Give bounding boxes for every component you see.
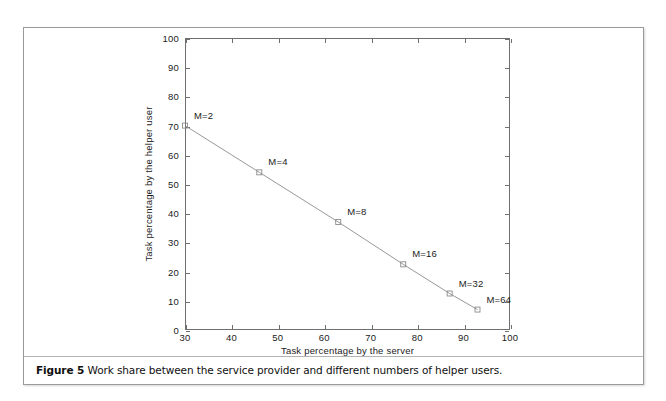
y-axis-tick-label: 80 <box>168 91 179 102</box>
x-axis-tick-label: 60 <box>319 332 330 343</box>
y-axis-tick-label: 40 <box>168 208 179 219</box>
x-axis-tick <box>511 39 512 43</box>
data-point-label: M=4 <box>268 156 287 167</box>
figure-chart-area: 304050607080901000102030405060708090100 … <box>24 28 643 356</box>
y-axis-tick-label: 10 <box>168 295 179 306</box>
data-point-label: M=16 <box>412 248 437 259</box>
y-axis-tick-label: 90 <box>168 62 179 73</box>
scanned-page: 304050607080901000102030405060708090100 … <box>23 27 644 385</box>
x-axis-tick-label: 50 <box>272 332 283 343</box>
x-axis-tick <box>511 325 512 329</box>
figure-caption-body: Work share between the service provider … <box>84 364 502 376</box>
x-axis-tick-label: 80 <box>412 332 423 343</box>
y-axis-tick-label: 20 <box>168 266 179 277</box>
y-axis-tick-label: 0 <box>174 325 179 336</box>
x-axis-tick-label: 30 <box>180 332 191 343</box>
x-axis-tick-label: 40 <box>226 332 237 343</box>
x-axis-tick-label: 70 <box>365 332 376 343</box>
y-axis-tick-label: 50 <box>168 179 179 190</box>
y-axis-tick-label: 70 <box>168 120 179 131</box>
y-axis-tick-label: 60 <box>168 149 179 160</box>
figure-caption-prefix: Figure 5 <box>36 364 84 376</box>
figure-caption: Figure 5 Work share between the service … <box>36 364 502 376</box>
y-axis-label: Task percentage by the helper user <box>143 106 154 261</box>
x-axis-tick-label: 90 <box>458 332 469 343</box>
data-point-label: M=2 <box>194 110 213 121</box>
data-point-label: M=64 <box>487 294 512 305</box>
y-axis-tick-label: 30 <box>168 237 179 248</box>
series-line <box>185 126 478 310</box>
data-point-label: M=32 <box>459 278 484 289</box>
x-axis-tick-label: 100 <box>502 332 518 343</box>
figure-caption-bar: Figure 5 Work share between the service … <box>24 356 643 385</box>
data-point-label: M=8 <box>347 206 366 217</box>
x-axis-label: Task percentage by the server <box>185 345 510 356</box>
y-axis-tick-label: 100 <box>163 33 179 44</box>
